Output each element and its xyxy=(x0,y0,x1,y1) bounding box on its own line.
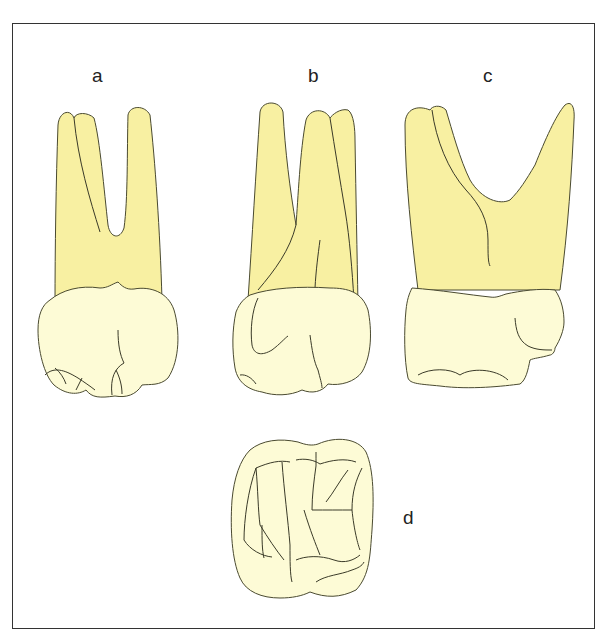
tooth-c-root xyxy=(405,103,574,290)
label-d: d xyxy=(403,508,414,527)
tooth-view-d xyxy=(231,439,373,598)
tooth-view-a xyxy=(38,108,178,398)
label-b: b xyxy=(308,66,319,85)
tooth-view-c xyxy=(405,103,575,387)
label-c: c xyxy=(483,66,493,85)
label-a: a xyxy=(92,66,103,85)
tooth-d-occlusal xyxy=(231,439,373,598)
tooth-b-root xyxy=(248,103,358,305)
tooth-a-crown xyxy=(38,282,178,397)
tooth-illustration xyxy=(0,0,606,641)
tooth-a-root xyxy=(55,108,162,306)
tooth-c-crown xyxy=(405,288,564,388)
tooth-view-b xyxy=(233,103,371,395)
tooth-b-crown xyxy=(233,287,371,395)
